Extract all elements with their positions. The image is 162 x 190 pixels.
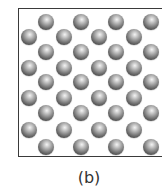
sphere-icon (126, 90, 142, 106)
sphere-icon (21, 122, 37, 138)
sphere-icon (143, 139, 159, 155)
sphere-icon (143, 74, 159, 90)
sphere-icon (73, 44, 89, 60)
sphere-icon (21, 29, 37, 45)
sphere-icon (56, 90, 72, 106)
sphere-icon (108, 74, 124, 90)
sphere-icon (73, 139, 89, 155)
sphere-icon (91, 122, 107, 138)
sphere-icon (108, 44, 124, 60)
sphere-icon (21, 60, 37, 76)
sphere-icon (38, 44, 54, 60)
sphere-icon (143, 105, 159, 121)
sphere-icon (73, 74, 89, 90)
sphere-icon (126, 60, 142, 76)
sphere-icon (56, 29, 72, 45)
sphere-icon (126, 122, 142, 138)
sphere-icon (143, 44, 159, 60)
sphere-icon (73, 14, 89, 30)
sphere-icon (91, 90, 107, 106)
figure-caption: (b) (0, 168, 162, 187)
sphere-icon (73, 105, 89, 121)
sphere-icon (108, 14, 124, 30)
sphere-icon (108, 105, 124, 121)
sphere-icon (91, 60, 107, 76)
sphere-icon (143, 14, 159, 30)
sphere-icon (56, 60, 72, 76)
sphere-icon (108, 139, 124, 155)
sphere-icon (38, 139, 54, 155)
sphere-icon (38, 74, 54, 90)
sphere-icon (38, 105, 54, 121)
sphere-icon (21, 90, 37, 106)
sphere-icon (56, 122, 72, 138)
sphere-icon (91, 29, 107, 45)
sphere-icon (38, 14, 54, 30)
sphere-icon (126, 29, 142, 45)
